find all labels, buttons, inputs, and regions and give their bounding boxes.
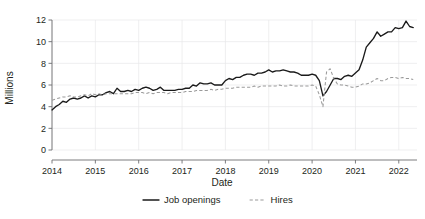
x-tick-label: 2022 bbox=[389, 166, 409, 176]
x-tick-label: 2020 bbox=[302, 166, 322, 176]
x-tick-label: 2017 bbox=[172, 166, 192, 176]
line-chart: 201420152016201720182019202020212022 024… bbox=[0, 0, 425, 219]
y-tick-label: 2 bbox=[41, 124, 46, 134]
y-gridlines bbox=[52, 20, 417, 150]
y-tick-label: 10 bbox=[36, 37, 46, 47]
x-tick-label: 2016 bbox=[129, 166, 149, 176]
axes bbox=[52, 20, 417, 160]
legend-label-hires: Hires bbox=[271, 194, 293, 205]
x-tick-label: 2021 bbox=[345, 166, 365, 176]
x-tick-label: 2015 bbox=[85, 166, 105, 176]
y-axis-title: Millions bbox=[4, 71, 15, 104]
series-line-job-openings bbox=[52, 21, 413, 110]
y-tick-labels: 024681012 bbox=[36, 15, 46, 155]
y-tick-label: 6 bbox=[41, 80, 46, 90]
chart-legend: Job openingsHires bbox=[143, 194, 293, 205]
x-tick-label: 2014 bbox=[42, 166, 62, 176]
y-tick-label: 4 bbox=[41, 102, 46, 112]
data-series-layer bbox=[52, 21, 413, 110]
legend-label-job-openings: Job openings bbox=[164, 194, 221, 205]
x-tick-label: 2018 bbox=[215, 166, 235, 176]
x-tick-label: 2019 bbox=[259, 166, 279, 176]
y-tick-label: 8 bbox=[41, 59, 46, 69]
y-tick-label: 0 bbox=[41, 145, 46, 155]
chart-container: 201420152016201720182019202020212022 024… bbox=[0, 0, 425, 219]
series-line-hires bbox=[52, 69, 413, 107]
x-tick-labels: 201420152016201720182019202020212022 bbox=[42, 166, 409, 176]
y-tick-label: 12 bbox=[36, 15, 46, 25]
x-axis-title: Date bbox=[211, 177, 233, 188]
